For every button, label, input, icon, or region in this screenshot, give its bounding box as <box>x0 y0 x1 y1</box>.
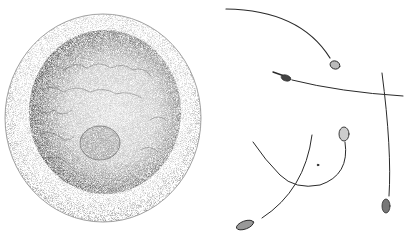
egg-cell <box>5 14 201 222</box>
sperm-3 <box>382 73 390 213</box>
illustration <box>0 0 406 236</box>
sperm-cells <box>226 9 403 232</box>
sperm-5 <box>235 135 312 232</box>
egg-cytoplasm <box>29 30 181 194</box>
sperm-4 <box>253 127 349 186</box>
sperm-1 <box>226 9 341 70</box>
